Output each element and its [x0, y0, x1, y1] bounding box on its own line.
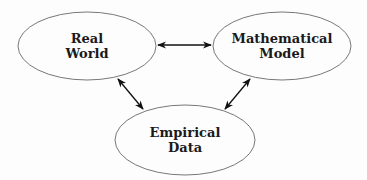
node-label-line: Data [150, 140, 221, 155]
node-label-line: Empirical [150, 125, 221, 140]
node-label-line: Real [65, 31, 108, 46]
node-real-world-label: Real World [65, 31, 108, 61]
node-label-line: Model [232, 46, 333, 61]
edge-real-world-empirical-data-arrow [118, 79, 143, 109]
node-empirical-data-label: Empirical Data [150, 125, 221, 155]
node-mathematical-model-label: Mathematical Model [232, 31, 333, 61]
edge-mathematical-model-empirical-data-arrow [225, 79, 250, 109]
node-label-line: Mathematical [232, 31, 333, 46]
node-label-line: World [65, 46, 108, 61]
diagram-canvas: Real World Mathematical Model Empirical … [0, 0, 367, 180]
